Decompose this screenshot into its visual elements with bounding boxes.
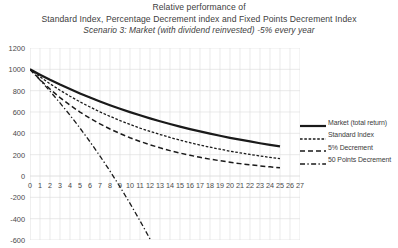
plot-lines [30, 48, 300, 240]
chart-title-line-1: Relative performance of [0, 2, 398, 14]
legend-item[interactable]: Standard Index [300, 129, 398, 141]
y-axis-tick-label: -600 [10, 236, 25, 245]
y-axis-tick-label: 200 [13, 150, 25, 159]
legend-item-label: 50 Points Decrement [328, 156, 391, 163]
x-axis-tick-label: 3 [58, 181, 62, 190]
y-axis-tick-label: 800 [13, 86, 25, 95]
x-axis-tick-label: 8 [108, 181, 112, 190]
x-axis-tick-label: 6 [88, 181, 92, 190]
x-axis-tick-label: 19 [216, 181, 224, 190]
x-axis-tick-label: 5 [78, 181, 82, 190]
y-axis-tick-label: -400 [10, 214, 25, 223]
series-line [30, 69, 280, 146]
legend-item-label: 5% Decrement [328, 144, 373, 151]
y-axis-tick-label: 600 [13, 108, 25, 117]
x-axis-tick-label: 11 [136, 181, 143, 190]
x-axis-tick-label: 22 [246, 181, 254, 190]
series-line [30, 69, 280, 167]
y-axis-tick-label: 400 [13, 129, 25, 138]
legend-line-swatch [300, 155, 326, 165]
y-axis: 120010008006004002000-200-400-600 [0, 48, 28, 238]
x-axis-tick-label: 21 [236, 181, 244, 190]
chart-title-block: Relative performance of Standard Index, … [0, 2, 398, 37]
chart-legend: Market (total return)Standard Index5% De… [300, 116, 398, 166]
x-axis-tick-label: 26 [286, 181, 294, 190]
x-axis-tick-label: 12 [146, 181, 154, 190]
x-axis-tick-label: 0 [28, 181, 32, 190]
x-axis-tick-label: 13 [156, 181, 164, 190]
legend-line-swatch [300, 117, 326, 127]
x-axis-tick-label: 9 [118, 181, 122, 190]
series-line [30, 69, 280, 158]
legend-line-swatch [300, 142, 326, 152]
x-axis-tick-label: 20 [226, 181, 234, 190]
x-axis-tick-label: 24 [266, 181, 274, 190]
y-axis-tick-label: 1000 [9, 65, 25, 74]
legend-item[interactable]: 5% Decrement [300, 141, 398, 153]
chart-title-line-2: Standard Index, Percentage Decrement ind… [0, 14, 398, 26]
legend-line-swatch [300, 130, 326, 140]
x-axis-tick-label: 17 [196, 181, 204, 190]
x-axis-tick-label: 18 [206, 181, 214, 190]
plot-area [30, 48, 300, 180]
x-axis-tick-label: 2 [48, 181, 52, 190]
x-axis-tick-label: 27 [296, 181, 304, 190]
x-axis-tick-label: 25 [276, 181, 284, 190]
chart-subtitle: Scenario 3: Market (with dividend reinve… [0, 25, 398, 37]
x-axis-tick-label: 16 [186, 181, 194, 190]
x-axis: 0123456789101112131415161718192021222324… [30, 181, 300, 193]
legend-item[interactable]: 50 Points Decrement [300, 154, 398, 166]
x-axis-tick-label: 10 [126, 181, 134, 190]
legend-item[interactable]: Market (total return) [300, 116, 398, 128]
y-axis-tick-label: -200 [10, 193, 25, 202]
y-axis-tick-label: 0 [21, 172, 25, 181]
x-axis-tick-label: 4 [68, 181, 72, 190]
chart-container: Relative performance of Standard Index, … [0, 0, 398, 248]
x-axis-tick-label: 23 [256, 181, 264, 190]
legend-item-label: Market (total return) [328, 119, 387, 126]
x-axis-tick-label: 1 [38, 181, 42, 190]
y-axis-tick-label: 1200 [9, 44, 25, 53]
x-axis-tick-label: 7 [98, 181, 102, 190]
legend-item-label: Standard Index [328, 131, 374, 138]
x-axis-tick-label: 15 [176, 181, 184, 190]
x-axis-tick-label: 14 [166, 181, 174, 190]
